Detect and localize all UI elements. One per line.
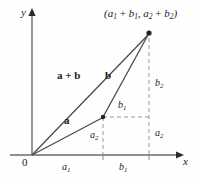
y-axis-arrowhead xyxy=(28,8,35,16)
component-a2-mid-label: a2 xyxy=(90,130,98,141)
component-b1-axis-label: b1 xyxy=(119,162,127,173)
a2-mid-subscript: 2 xyxy=(95,134,98,141)
a1-axis-subscript: 1 xyxy=(67,166,70,173)
b1-mid-subscript: 1 xyxy=(123,104,126,111)
component-b2-right-label: b2 xyxy=(155,78,163,89)
y-axis-label: y xyxy=(21,7,26,18)
vector-a-label: a xyxy=(64,115,70,126)
b1-axis-subscript: 1 xyxy=(124,166,127,173)
component-a1-axis-label: a1 xyxy=(62,162,70,173)
plus-sign-1: + xyxy=(117,7,129,19)
vector-a-plus-b-label: a + b xyxy=(57,70,80,81)
sum-point-label: (a1 + b1, a2 + b2) xyxy=(104,8,177,20)
paren-close: ) xyxy=(174,7,178,19)
origin-label: 0 xyxy=(22,157,28,168)
sum-vertex-dot xyxy=(146,30,151,35)
b2-right-subscript: 2 xyxy=(160,82,163,89)
diagram-canvas xyxy=(0,0,199,179)
a2-right-subscript: 2 xyxy=(160,132,163,139)
vector-b-label: b xyxy=(105,70,111,81)
x-axis-label: x xyxy=(183,156,188,167)
vector-addition-diagram: (a1 + b1, a2 + b2) y x 0 a + b b a b2 a2… xyxy=(0,0,199,179)
component-a2-right-label: a2 xyxy=(155,128,163,139)
component-b1-mid-label: b1 xyxy=(118,100,126,111)
mid-vertex-dot xyxy=(101,115,105,119)
plus-sign-2: + xyxy=(153,7,165,19)
